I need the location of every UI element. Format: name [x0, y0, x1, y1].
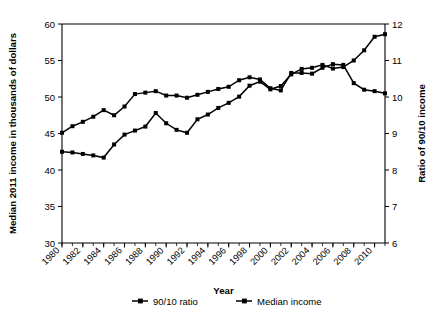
series-marker-90-10-ratio: [164, 121, 168, 125]
series-marker-median-income: [373, 89, 377, 93]
series-marker-median-income: [310, 72, 314, 76]
series-marker-median-income: [175, 94, 179, 98]
series-marker-90-10-ratio: [102, 156, 106, 160]
legend-marker-1: [242, 299, 247, 304]
x-ticklabel: 1998: [227, 245, 249, 267]
x-axis-title: Year: [213, 285, 234, 296]
series-marker-90-10-ratio: [268, 87, 272, 91]
series-marker-90-10-ratio: [91, 153, 95, 157]
x-ticklabel: 1988: [123, 245, 145, 267]
series-marker-median-income: [362, 88, 366, 92]
series-marker-median-income: [143, 91, 147, 95]
y-ticklabel-right: 8: [392, 165, 397, 176]
series-marker-90-10-ratio: [248, 84, 252, 88]
series-marker-90-10-ratio: [60, 150, 64, 154]
x-ticklabel: 1982: [61, 245, 83, 267]
series-marker-90-10-ratio: [143, 125, 147, 129]
series-marker-median-income: [237, 78, 241, 82]
series-marker-90-10-ratio: [279, 84, 283, 88]
series-marker-median-income: [70, 124, 74, 128]
series-marker-90-10-ratio: [185, 131, 189, 135]
legend-marker-0: [138, 299, 143, 304]
series-marker-90-10-ratio: [175, 128, 179, 132]
x-ticklabel: 2006: [311, 245, 333, 267]
x-ticklabel: 2002: [269, 245, 291, 267]
series-marker-median-income: [60, 131, 64, 135]
series-marker-90-10-ratio: [362, 48, 366, 52]
series-marker-90-10-ratio: [352, 59, 356, 63]
series-marker-90-10-ratio: [331, 67, 335, 71]
series-marker-median-income: [383, 91, 387, 95]
series-line-median-income: [62, 64, 385, 133]
y-axis-title-left: Median 2011 income in thousands of dolla…: [7, 33, 18, 234]
series-marker-90-10-ratio: [383, 32, 387, 36]
series-marker-90-10-ratio: [227, 101, 231, 105]
x-ticklabel: 2008: [332, 245, 354, 267]
series-marker-median-income: [133, 92, 137, 96]
series-marker-median-income: [300, 71, 304, 75]
series-marker-90-10-ratio: [258, 80, 262, 84]
series-marker-90-10-ratio: [216, 106, 220, 110]
legend-label-0: 90/10 ratio: [153, 296, 198, 307]
x-ticklabel: 1990: [144, 245, 166, 267]
series-marker-median-income: [206, 90, 210, 94]
series-marker-median-income: [331, 62, 335, 66]
series-marker-90-10-ratio: [81, 152, 85, 156]
series-marker-90-10-ratio: [154, 111, 158, 115]
y-ticklabel-left: 50: [44, 92, 55, 103]
series-marker-median-income: [279, 88, 283, 92]
series-marker-median-income: [227, 85, 231, 89]
series-marker-median-income: [195, 93, 199, 97]
y-ticklabel-left: 60: [44, 19, 55, 30]
x-ticklabel: 1994: [186, 245, 208, 267]
y-ticklabel-right: 9: [392, 128, 397, 139]
series-marker-90-10-ratio: [206, 113, 210, 117]
series-marker-median-income: [164, 94, 168, 98]
legend-label-1: Median income: [257, 296, 321, 307]
y-ticklabel-right: 7: [392, 201, 397, 212]
y-ticklabel-left: 45: [44, 128, 55, 139]
y-ticklabel-right: 12: [392, 19, 403, 30]
x-ticklabel: 1984: [82, 245, 104, 267]
x-ticklabel: 1996: [207, 245, 229, 267]
series-marker-90-10-ratio: [320, 63, 324, 67]
series-marker-90-10-ratio: [195, 117, 199, 121]
series-marker-90-10-ratio: [112, 142, 116, 146]
x-ticklabel: 1992: [165, 245, 187, 267]
series-marker-90-10-ratio: [133, 129, 137, 133]
x-ticklabel: 2004: [290, 245, 312, 267]
series-marker-90-10-ratio: [237, 95, 241, 99]
y-ticklabel-right: 6: [392, 238, 397, 249]
series-marker-median-income: [81, 120, 85, 124]
series-marker-median-income: [154, 89, 158, 93]
y-ticklabel-left: 40: [44, 165, 55, 176]
y-ticklabel-left: 35: [44, 201, 55, 212]
series-marker-90-10-ratio: [123, 133, 127, 137]
series-marker-median-income: [123, 104, 127, 108]
series-marker-median-income: [352, 81, 356, 85]
x-ticklabel: 1980: [40, 245, 62, 267]
series-marker-median-income: [248, 75, 252, 79]
y-ticklabel-right: 10: [392, 92, 403, 103]
y-axis-title-right: Ratio of 90/10 income: [416, 84, 427, 183]
series-marker-median-income: [185, 96, 189, 100]
y-ticklabel-left: 55: [44, 55, 55, 66]
series-line-90-10-ratio: [62, 34, 385, 157]
series-marker-90-10-ratio: [289, 72, 293, 76]
series-marker-median-income: [91, 115, 95, 119]
x-ticklabel: 2000: [248, 245, 270, 267]
series-marker-median-income: [216, 87, 220, 91]
series-marker-90-10-ratio: [310, 66, 314, 70]
series-marker-median-income: [102, 108, 106, 112]
y-ticklabel-right: 11: [392, 55, 402, 66]
x-ticklabel: 2010: [352, 245, 374, 267]
x-ticklabel: 1986: [102, 245, 124, 267]
series-marker-90-10-ratio: [300, 67, 304, 71]
income-ratio-line-chart: 3035404550556067891011121980198219841986…: [0, 0, 439, 318]
series-marker-90-10-ratio: [70, 150, 74, 154]
chart-container: 3035404550556067891011121980198219841986…: [0, 0, 439, 318]
series-marker-median-income: [112, 113, 116, 117]
series-marker-90-10-ratio: [373, 35, 377, 39]
series-marker-90-10-ratio: [341, 65, 345, 69]
